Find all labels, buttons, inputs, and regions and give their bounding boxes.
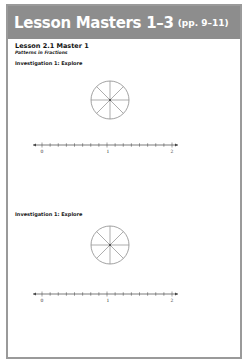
figures-layer: 012 012 — [0, 0, 250, 364]
tick-label: 1 — [107, 149, 110, 154]
arrow-right-icon — [175, 293, 178, 296]
figure-group-1: 012 — [33, 81, 178, 154]
circle-center-dot — [109, 99, 111, 101]
circle-center-dot — [109, 244, 111, 246]
arrow-right-icon — [175, 144, 178, 147]
figure-group-2: 012 — [33, 226, 178, 303]
tick-label: 2 — [171, 298, 174, 303]
tick-label: 1 — [107, 298, 110, 303]
tick-label: 2 — [171, 149, 174, 154]
arrow-left-icon — [33, 293, 36, 296]
tick-label: 0 — [41, 149, 44, 154]
tick-label: 0 — [41, 298, 44, 303]
arrow-left-icon — [33, 144, 36, 147]
